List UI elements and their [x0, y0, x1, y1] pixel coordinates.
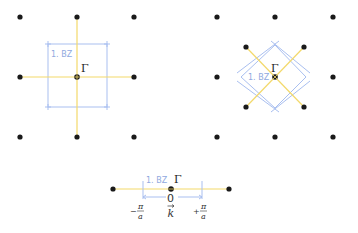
bz-label: 1. BZ — [51, 50, 73, 59]
gamma-label: Γ — [271, 62, 279, 75]
bz-label: 1. BZ — [146, 176, 168, 185]
svg-text:−: − — [130, 207, 137, 216]
svg-text:a: a — [138, 212, 143, 221]
gamma-point — [272, 74, 278, 80]
svg-text:a: a — [201, 212, 206, 221]
svg-text:k: k — [168, 207, 175, 220]
svg-text:+: + — [193, 207, 200, 216]
gamma-point — [168, 186, 174, 192]
k-vector-label: k — [168, 205, 175, 221]
gamma-label: Γ — [174, 173, 182, 186]
svg-text:π: π — [137, 202, 144, 211]
bz-label: 1. BZ — [248, 73, 270, 82]
rotated-lattice-panel: 1. BZ Γ — [214, 14, 335, 139]
one-d-lattice-panel: 1. BZ Γ 0 k − π a + π a — [110, 173, 231, 221]
plus-pi-over-a-label: + π a — [193, 202, 207, 221]
gamma-point — [74, 74, 80, 80]
svg-text:π: π — [200, 202, 207, 211]
gamma-label: Γ — [81, 62, 89, 75]
brillouin-zone-diagram: 1. BZ Γ — [0, 0, 358, 233]
square-lattice-panel: 1. BZ Γ — [17, 14, 136, 139]
origin-label: 0 — [167, 192, 174, 205]
minus-pi-over-a-label: − π a — [130, 202, 144, 221]
